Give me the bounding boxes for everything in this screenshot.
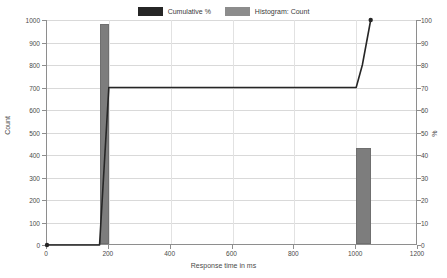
x-axis-tick-label: 0	[26, 250, 66, 257]
y-axis-left-tick-label: 100	[6, 219, 40, 226]
cumulative-percent-marker	[368, 18, 372, 22]
legend-swatch-histogram-count	[225, 7, 250, 16]
chart-legend: Cumulative % Histogram: Count	[0, 7, 447, 16]
cumulative-percent-marker	[45, 243, 49, 247]
y-axis-left-tick-label: 900	[6, 39, 40, 46]
x-axis-tick-mark	[293, 245, 294, 249]
y-axis-left-tick-label: 400	[6, 152, 40, 159]
y-axis-left-tick-label: 0	[6, 242, 40, 249]
cumulative-percent-polyline	[47, 20, 371, 245]
x-axis-tick-mark	[108, 245, 109, 249]
y-axis-left-tick-label: 500	[6, 129, 40, 136]
x-axis-tick-label: 1200	[397, 250, 437, 257]
x-axis-tick-label: 600	[212, 250, 252, 257]
legend-label-cumulative-percent: Cumulative %	[168, 7, 211, 16]
x-axis-tick-mark	[170, 245, 171, 249]
legend-item-histogram-count: Histogram: Count	[225, 7, 309, 16]
x-axis-tick-label: 1000	[335, 250, 375, 257]
plot-area	[46, 20, 417, 245]
y-axis-left-tick-label: 800	[6, 62, 40, 69]
legend-label-histogram-count: Histogram: Count	[255, 7, 309, 16]
y-axis-left-tick-label: 600	[6, 107, 40, 114]
chart-container: Cumulative % Histogram: Count 0100200300…	[0, 0, 447, 278]
y-axis-right-tick-label: 20	[421, 197, 447, 204]
y-axis-left-tick-label: 200	[6, 197, 40, 204]
y-axis-right-tick-label: 60	[421, 107, 447, 114]
x-axis-tick-label: 400	[150, 250, 190, 257]
x-axis-tick-mark	[232, 245, 233, 249]
y-axis-right-tick-label: 0	[421, 242, 447, 249]
x-axis-tick-label: 800	[273, 250, 313, 257]
legend-swatch-cumulative-percent	[138, 7, 163, 16]
y-axis-left-title: Count	[4, 102, 11, 150]
x-axis-title: Response time in ms	[0, 262, 447, 269]
y-axis-right-tick-label: 10	[421, 219, 447, 226]
x-axis-tick-mark	[417, 245, 418, 249]
y-axis-right-tick-label: 30	[421, 174, 447, 181]
y-axis-left-tick-label: 1000	[6, 17, 40, 24]
y-axis-right-tick-label: 90	[421, 39, 447, 46]
y-axis-left-tick-label: 700	[6, 84, 40, 91]
y-axis-right-tick-label: 70	[421, 84, 447, 91]
legend-item-cumulative-percent: Cumulative %	[138, 7, 211, 16]
y-axis-right-tick-label: 80	[421, 62, 447, 69]
y-axis-left-tick-label: 300	[6, 174, 40, 181]
x-axis-tick-mark	[355, 245, 356, 249]
y-axis-right-title: %	[431, 114, 438, 154]
cumulative-percent-line	[47, 20, 418, 245]
x-axis-tick-label: 200	[88, 250, 128, 257]
y-axis-right-tick-label: 100	[421, 17, 447, 24]
